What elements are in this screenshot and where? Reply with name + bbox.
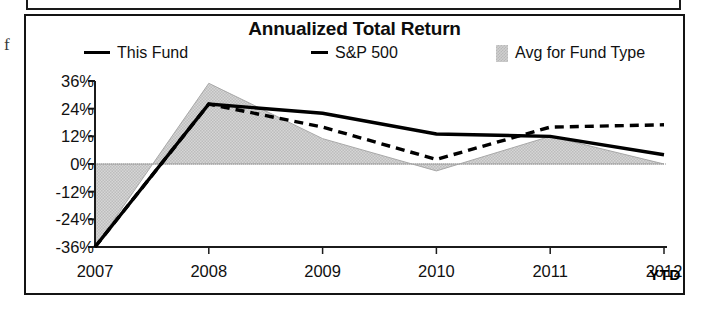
- x-tick-label: 2007: [77, 262, 114, 281]
- y-tick-label: 12%: [61, 128, 94, 145]
- y-axis-tick-labels: 36%24%12%0%-12%-24%-36%: [28, 16, 94, 293]
- chart-plot-svg: [26, 16, 683, 293]
- x-axis-tick-labels: 200720082009201020112012: [26, 262, 683, 292]
- annualized-total-return-chart-panel: Annualized Total Return This Fund S&P 50…: [24, 14, 685, 295]
- y-tick-label: -24%: [55, 211, 94, 228]
- x-tick-label: 2009: [304, 262, 341, 281]
- y-tick-label: 36%: [61, 73, 94, 90]
- x-axis-ytd-label: YTD: [649, 266, 681, 284]
- plot-area: 36%24%12%0%-12%-24%-36% 2007200820092010…: [26, 16, 683, 293]
- scan-artifact-glyph: f: [4, 36, 10, 53]
- y-tick-label: 0%: [70, 156, 94, 173]
- x-tick-label: 2008: [190, 262, 227, 281]
- y-tick-label: 24%: [61, 101, 94, 118]
- upper-panel-fragment: [26, 0, 681, 10]
- series-avg-for-fund-type: [95, 83, 664, 247]
- x-tick-label: 2010: [418, 262, 455, 281]
- y-tick-label: -36%: [55, 239, 94, 256]
- x-tick-label: 2011: [532, 262, 567, 281]
- y-tick-label: -12%: [55, 184, 94, 201]
- x-axis: [95, 247, 667, 254]
